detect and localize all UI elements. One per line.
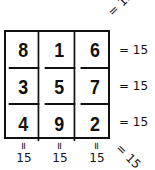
anti-diagonal-sum-label: = 15 — [106, 0, 135, 18]
column-2-sum: = 15 — [45, 142, 75, 164]
column-2-equals-sign: = — [56, 131, 64, 161]
cell-r2-c2: 5 — [45, 69, 76, 105]
column-1-equals-sign: = — [20, 131, 28, 161]
cell-r1-c2: 1 — [45, 32, 76, 69]
row-1-sum-label: = 15 — [119, 44, 148, 56]
main-diagonal-sum-label: = 15 — [114, 142, 143, 170]
row-2-sum-label: = 15 — [119, 80, 148, 92]
row-3-sum-label: = 15 — [119, 116, 148, 128]
cell-r2-c3: 7 — [81, 69, 110, 105]
column-3-sum: = 15 — [82, 142, 112, 164]
column-3-equals-sign: = — [93, 131, 101, 161]
cell-r1-c3: 6 — [81, 32, 110, 69]
magic-square-grid: 8 1 6 3 5 7 4 9 2 — [4, 30, 110, 139]
cell-r2-c1: 3 — [9, 69, 40, 105]
cell-r1-c1: 8 — [9, 32, 40, 69]
column-1-sum: = 15 — [9, 142, 39, 164]
